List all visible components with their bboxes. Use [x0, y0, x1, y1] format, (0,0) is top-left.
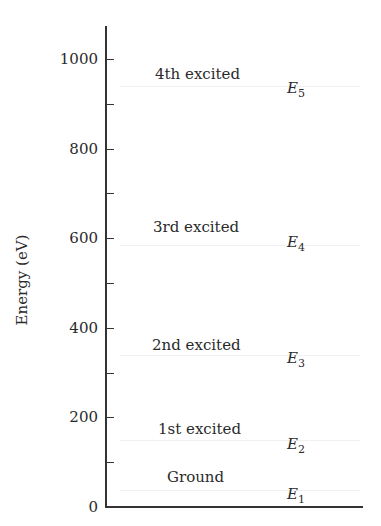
level-symbol-e3: E3: [287, 350, 305, 372]
tick-500: [106, 283, 114, 284]
tick-300: [106, 373, 114, 374]
level-name-ground: Ground: [167, 469, 224, 485]
tick-label-400: 400: [38, 320, 98, 336]
level-symbol-e5: E5: [287, 80, 305, 102]
tick-800: [106, 149, 114, 150]
tick-label-600: 600: [38, 230, 98, 246]
level-line-2nd: [120, 355, 360, 356]
y-axis-line: [105, 26, 107, 508]
level-line-4th: [120, 86, 360, 87]
level-name-3rd: 3rd excited: [153, 219, 239, 235]
tick-label-0: 0: [38, 499, 98, 515]
level-name-4th: 4th excited: [155, 66, 240, 82]
tick-900: [106, 104, 114, 105]
x-axis-baseline: [105, 506, 363, 508]
tick-600: [106, 238, 114, 239]
level-symbol-e2: E2: [287, 436, 305, 458]
level-line-1st: [120, 440, 360, 441]
tick-1000: [106, 59, 114, 60]
level-line-ground: [120, 490, 360, 491]
tick-0: [106, 507, 114, 508]
tick-label-800: 800: [38, 141, 98, 157]
y-axis-label: Energy (eV): [13, 235, 31, 326]
tick-400: [106, 328, 114, 329]
level-line-3rd: [120, 245, 360, 246]
level-symbol-e1: E1: [287, 486, 305, 508]
tick-label-1000: 1000: [38, 51, 98, 67]
tick-700: [106, 193, 114, 194]
level-symbol-e4: E4: [287, 234, 305, 256]
level-name-2nd: 2nd excited: [152, 337, 241, 353]
tick-100: [106, 462, 114, 463]
tick-label-200: 200: [38, 409, 98, 425]
tick-200: [106, 417, 114, 418]
level-name-1st: 1st excited: [158, 421, 241, 437]
